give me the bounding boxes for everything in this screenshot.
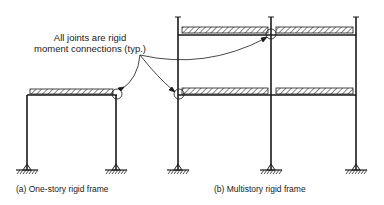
caption-multistory: (b) Multistory rigid frame xyxy=(214,184,306,194)
caption-one-story: (a) One-story rigid frame xyxy=(16,184,109,194)
annotation-line-1: All joints are rigid xyxy=(28,32,152,43)
rigid-frame-diagram xyxy=(0,0,384,205)
roof-slab xyxy=(276,27,353,33)
roof-slab xyxy=(182,27,268,33)
one-story-frame xyxy=(16,89,127,174)
roof-slab xyxy=(30,89,113,94)
floor-slab xyxy=(182,88,268,94)
annotation-line-2: moment connections (typ.) xyxy=(28,43,152,54)
rigid-joints-annotation: All joints are rigid moment connections … xyxy=(28,32,152,54)
multistory-frame xyxy=(167,17,367,174)
floor-slab xyxy=(276,88,353,94)
